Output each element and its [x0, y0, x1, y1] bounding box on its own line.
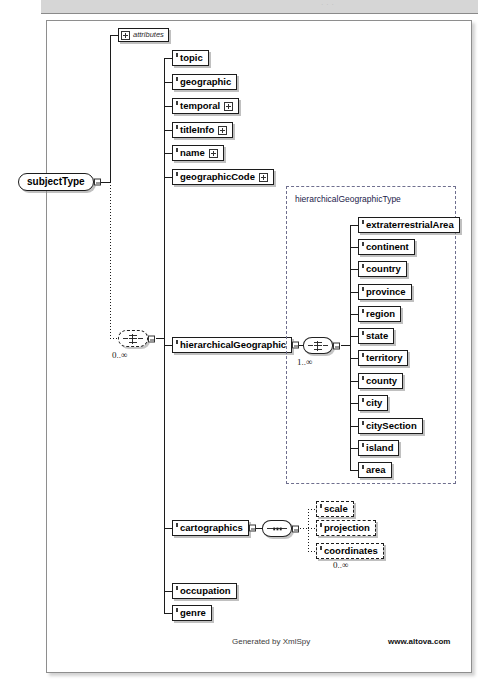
element-area[interactable]: area	[358, 462, 392, 478]
element-projection[interactable]: projection	[316, 520, 376, 536]
element-hierarchicalGeographic-label: hierarchicalGeographic	[180, 340, 286, 350]
cartographics-stub[interactable]	[249, 525, 256, 532]
element-territory[interactable]: territory	[358, 350, 408, 366]
element-city-label: city	[366, 398, 382, 408]
element-state-label: state	[366, 331, 388, 341]
element-genre[interactable]: genre	[172, 605, 212, 621]
element-extraterrestrialArea[interactable]: extraterrestrialArea	[358, 217, 460, 233]
root-type-subjectType[interactable]: subjectType	[18, 173, 94, 191]
element-titleInfo[interactable]: titleInfo	[172, 122, 233, 138]
element-name-label: name	[180, 148, 205, 158]
root-choice-stub[interactable]	[148, 335, 155, 342]
generated-by-text: Generated by XmlSpy	[232, 637, 310, 646]
plus-expand-icon[interactable]	[259, 173, 268, 182]
plus-expand-icon[interactable]	[121, 31, 130, 40]
element-province-label: province	[366, 287, 406, 297]
cartographics-sequence-compositor[interactable]	[262, 520, 292, 537]
plus-expand-icon[interactable]	[218, 126, 227, 135]
plus-expand-icon[interactable]	[209, 149, 218, 158]
element-state[interactable]: state	[358, 328, 394, 344]
attributes-node[interactable]: attributes	[118, 28, 169, 42]
root-choice-cardinality: 0..∞	[112, 350, 127, 360]
root-type-label: subjectType	[27, 177, 85, 187]
element-genre-label: genre	[180, 608, 206, 618]
choice-icon	[304, 338, 332, 354]
element-titleInfo-label: titleInfo	[180, 125, 214, 135]
element-occupation-label: occupation	[180, 586, 231, 596]
element-coordinates-label: coordinates	[324, 546, 378, 556]
root-collapse-stub[interactable]	[94, 179, 101, 186]
choice-icon	[119, 331, 147, 347]
element-coordinates[interactable]: coordinates	[316, 543, 384, 559]
element-country[interactable]: country	[358, 261, 407, 277]
root-choice-compositor[interactable]	[118, 330, 148, 347]
element-temporal[interactable]: temporal	[172, 98, 239, 114]
element-name[interactable]: name	[172, 145, 224, 161]
element-occupation[interactable]: occupation	[172, 583, 237, 599]
element-geographicCode[interactable]: geographicCode	[172, 169, 274, 185]
element-scale-label: scale	[324, 504, 348, 514]
top-strip-text: · · ·	[321, 1, 334, 8]
hierarchicalGeographicType-label: hierarchicalGeographicType	[295, 194, 401, 204]
hierarchical-choice-stub[interactable]	[333, 342, 340, 349]
element-temporal-label: temporal	[180, 101, 220, 111]
cartographics-cardinality: 0..∞	[333, 560, 348, 570]
altova-website-link[interactable]: www.altova.com	[388, 637, 450, 646]
element-cartographics[interactable]: cartographics	[172, 520, 249, 536]
sequence-icon	[263, 521, 291, 537]
element-topic-label: topic	[180, 53, 203, 63]
element-topic[interactable]: topic	[172, 50, 209, 66]
element-area-label: area	[366, 465, 386, 475]
element-province[interactable]: province	[358, 284, 412, 300]
element-geographicCode-label: geographicCode	[180, 172, 255, 182]
hierarchicalGeographic-choice-compositor[interactable]	[303, 337, 333, 354]
element-city[interactable]: city	[358, 395, 388, 411]
element-extraterrestrialArea-label: extraterrestrialArea	[366, 220, 454, 230]
element-citySection[interactable]: citySection	[358, 418, 423, 434]
schema-diagram-canvas: · · ·	[0, 0, 478, 687]
element-geographic[interactable]: geographic	[172, 74, 237, 90]
element-region-label: region	[366, 309, 395, 319]
element-continent-label: continent	[366, 242, 409, 252]
element-county[interactable]: county	[358, 373, 403, 389]
plus-expand-icon[interactable]	[224, 102, 233, 111]
element-territory-label: territory	[366, 353, 402, 363]
element-island[interactable]: island	[358, 440, 399, 456]
cartographics-sequence-stub[interactable]	[292, 525, 299, 532]
element-cartographics-label: cartographics	[180, 523, 243, 533]
element-scale[interactable]: scale	[316, 501, 354, 517]
element-region[interactable]: region	[358, 306, 401, 322]
element-citySection-label: citySection	[366, 421, 417, 431]
element-hierarchicalGeographic[interactable]: hierarchicalGeographic	[172, 337, 292, 353]
element-continent[interactable]: continent	[358, 239, 415, 255]
attributes-label: attributes	[133, 31, 164, 39]
element-geographic-label: geographic	[180, 77, 231, 87]
element-county-label: county	[366, 376, 397, 386]
hierarchical-choice-cardinality: 1..∞	[297, 357, 312, 367]
element-country-label: country	[366, 264, 401, 274]
element-projection-label: projection	[324, 523, 370, 533]
window-top-strip: · · ·	[41, 0, 478, 14]
element-island-label: island	[366, 443, 393, 453]
